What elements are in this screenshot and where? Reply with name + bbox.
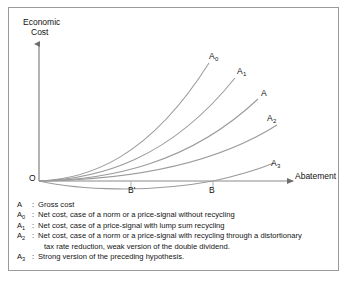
legend-key-subscript: 2: [22, 235, 25, 241]
curve-label-a2-sub: 2: [273, 118, 276, 124]
curve-a1: [39, 78, 235, 181]
chart-plot-area: Economic Cost Abatement O B' B A0 A1 A A…: [9, 8, 340, 197]
legend-key: A3: [17, 252, 32, 262]
legend-description-line: Net cost, case of a price-signal with lu…: [38, 221, 225, 230]
legend-key: A0: [17, 210, 32, 220]
legend-description: Net cost, case of a norm or a price-sign…: [38, 210, 333, 220]
legend-description-line: Net cost, case of a norm or a price-sign…: [38, 231, 302, 240]
legend-key-subscript: 3: [22, 256, 25, 262]
curve-a2: [39, 125, 277, 181]
curve-label-a2-base: A: [267, 113, 273, 123]
legend-key-subscript: 1: [22, 225, 25, 231]
legend-key-base: A: [17, 200, 22, 209]
curve-label-a-base: A: [261, 88, 267, 98]
figure-frame: Economic Cost Abatement O B' B A0 A1 A A…: [8, 7, 339, 271]
figure-legend: A:Gross costA0:Net cost, case of a norm …: [9, 200, 340, 262]
curve-a0: [39, 63, 209, 181]
curve-label-a1: A1: [237, 66, 246, 76]
curve-label-a3-sub: 3: [277, 163, 280, 169]
x-tick-label-b-prime: B': [128, 185, 135, 195]
curve-label-a: A: [261, 88, 267, 98]
curve-label-a1-sub: 1: [243, 71, 246, 77]
legend-description-line: Gross cost: [38, 200, 74, 209]
legend-description-continuation: tax rate reduction, weak version of the …: [38, 242, 333, 252]
origin-label: O: [29, 173, 36, 183]
legend-key: A1: [17, 221, 32, 231]
legend-row: A1:Net cost, case of a price-signal with…: [17, 221, 333, 231]
legend-description: Net cost, case of a price-signal with lu…: [38, 221, 333, 231]
y-axis-title-line1: Economic: [23, 17, 60, 27]
legend-description-line: Net cost, case of a norm or a price-sign…: [38, 210, 235, 219]
legend-key-subscript: 0: [22, 214, 25, 220]
legend-description: Net cost, case of a norm or a price-sign…: [38, 231, 333, 252]
curve-label-a0: A0: [209, 51, 218, 61]
curve-label-a0-sub: 0: [215, 56, 218, 62]
curve-label-a3-base: A: [271, 158, 277, 168]
legend-description: Strong version of the preceding hypothes…: [38, 252, 333, 262]
curve-label-a1-base: A: [237, 66, 243, 76]
legend-row: A3:Strong version of the preceding hypot…: [17, 252, 333, 262]
legend-description: Gross cost: [38, 200, 333, 210]
x-axis-title: Abatement: [295, 171, 336, 181]
legend-row: A0:Net cost, case of a norm or a price-s…: [17, 210, 333, 220]
curve-label-a3: A3: [271, 158, 280, 168]
legend-description-line: Strong version of the preceding hypothes…: [38, 252, 184, 261]
curve-label-a0-base: A: [209, 51, 215, 61]
legend-key: A: [17, 200, 32, 210]
curve-a: [39, 99, 258, 181]
legend-key: A2: [17, 231, 32, 241]
y-axis-title-line2: Cost: [23, 27, 60, 37]
x-tick-label-b: B: [209, 185, 215, 195]
legend-row: A2:Net cost, case of a norm or a price-s…: [17, 231, 333, 252]
legend-row: A:Gross cost: [17, 200, 333, 210]
curve-label-a2: A2: [267, 113, 276, 123]
y-axis-title: Economic Cost: [23, 17, 60, 37]
